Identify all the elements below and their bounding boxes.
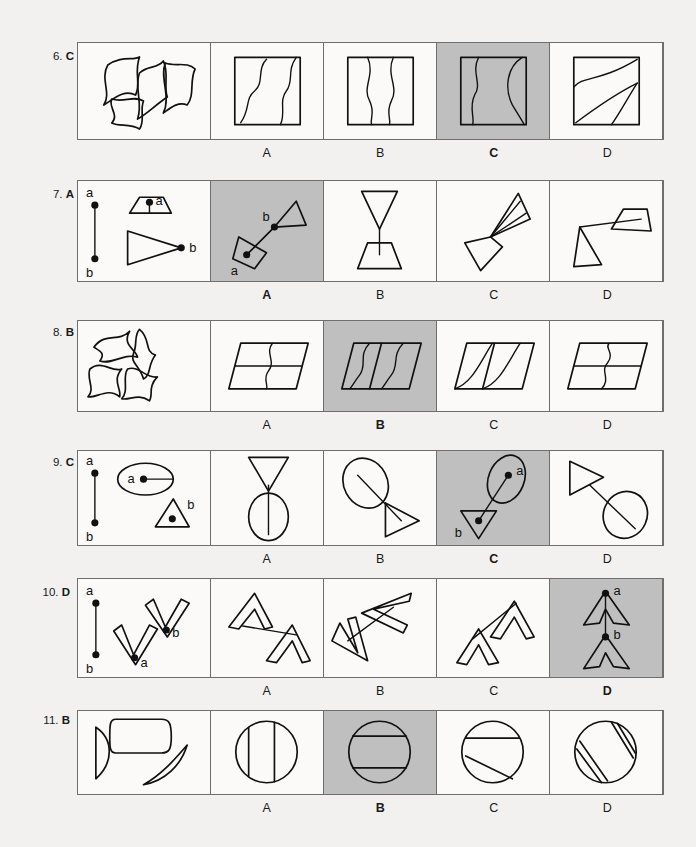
option-label-8-B: B: [324, 414, 438, 436]
row-label-7: 7. A: [14, 189, 74, 201]
option-cell-7-D[interactable]: [550, 181, 663, 281]
option-label-8-D: D: [551, 414, 665, 436]
option-label-9-C: C: [437, 548, 551, 570]
option-label-8-C: C: [437, 414, 551, 436]
option-label-6-C: C: [437, 142, 551, 164]
option-labels-11: A B C D: [77, 797, 664, 819]
option-label-6-D: D: [551, 142, 665, 164]
stem-panel-9: a b a b: [78, 451, 211, 545]
stem-label-a: a: [86, 185, 94, 200]
option-label-6-B: B: [324, 142, 438, 164]
option-cell-7-C[interactable]: [437, 181, 550, 281]
option-label-6-A: A: [210, 142, 324, 164]
option-cell-7-A[interactable]: a b: [211, 181, 324, 281]
question-row-8: 8. B: [77, 320, 664, 412]
svg-text:b: b: [172, 625, 179, 640]
stem-panel-10: a b b a: [78, 579, 211, 677]
option-cell-9-B[interactable]: [324, 451, 437, 545]
svg-text:b: b: [613, 627, 620, 642]
option-label-11-C: C: [437, 797, 551, 819]
label-spacer: [77, 142, 210, 164]
option-cell-6-D[interactable]: [550, 43, 663, 139]
option-label-10-B: B: [324, 680, 438, 702]
question-number: 8.: [53, 326, 63, 338]
stem-panel-11: [78, 711, 211, 794]
svg-text:b: b: [455, 525, 462, 540]
option-label-7-A: A: [210, 284, 324, 306]
option-label-8-A: A: [210, 414, 324, 436]
option-labels-10: A B C D: [77, 680, 664, 702]
option-label-11-D: D: [551, 797, 665, 819]
stem-label-a: a: [86, 583, 94, 598]
option-labels-9: A B C D: [77, 548, 664, 570]
answer-letter: C: [66, 50, 74, 62]
option-cell-8-C[interactable]: [437, 321, 550, 411]
option-label-10-A: A: [210, 680, 324, 702]
stem-panel-8: [78, 321, 211, 411]
answer-letter: B: [66, 326, 74, 338]
question-number: 6.: [53, 50, 63, 62]
label-spacer: [77, 797, 210, 819]
option-label-7-B: B: [324, 284, 438, 306]
option-cell-10-D[interactable]: a b: [550, 579, 663, 677]
option-label-11-B: B: [324, 797, 438, 819]
option-cell-6-C[interactable]: [437, 43, 550, 139]
svg-text:b: b: [187, 497, 194, 512]
option-labels-7: A B C D: [77, 284, 664, 306]
option-cell-8-B[interactable]: [324, 321, 437, 411]
option-cell-9-D[interactable]: [550, 451, 663, 545]
question-row-11: 11. B: [77, 710, 664, 795]
row-label-9: 9. C: [14, 457, 74, 469]
option-label-9-A: A: [210, 548, 324, 570]
label-spacer: [77, 548, 210, 570]
option-cell-10-B[interactable]: [324, 579, 437, 677]
svg-text:b: b: [263, 209, 270, 224]
question-row-6: 6. C: [77, 42, 664, 140]
option-cell-10-A[interactable]: [211, 579, 324, 677]
option-cell-6-B[interactable]: [324, 43, 437, 139]
stem-panel-6: [78, 43, 211, 139]
stem-label-a: a: [86, 453, 94, 468]
question-number: 11.: [43, 714, 58, 726]
option-labels-6: A B C D: [77, 142, 664, 164]
option-cell-11-B[interactable]: [324, 711, 437, 794]
svg-text:b: b: [189, 240, 196, 255]
row-label-10: 10. D: [10, 587, 70, 599]
svg-text:a: a: [155, 193, 163, 208]
svg-text:a: a: [613, 583, 621, 598]
option-cell-8-A[interactable]: [211, 321, 324, 411]
answer-letter: A: [66, 188, 74, 200]
label-spacer: [77, 284, 210, 306]
question-number: 7.: [53, 188, 63, 200]
option-label-10-C: C: [437, 680, 551, 702]
option-cell-6-A[interactable]: [211, 43, 324, 139]
stem-label-b: b: [86, 529, 93, 544]
question-row-10: a b b a: [77, 578, 664, 678]
option-cell-9-C[interactable]: a b: [437, 451, 550, 545]
option-label-7-C: C: [437, 284, 551, 306]
option-labels-8: A B C D: [77, 414, 664, 436]
option-cell-11-C[interactable]: [437, 711, 550, 794]
option-label-9-B: B: [324, 548, 438, 570]
option-cell-8-D[interactable]: [550, 321, 663, 411]
worksheet-page: 6. C A B C D a b a b: [0, 0, 696, 847]
answer-letter: B: [62, 714, 70, 726]
option-cell-11-A[interactable]: [211, 711, 324, 794]
option-cell-7-B[interactable]: [324, 181, 437, 281]
option-label-7-D: D: [551, 284, 665, 306]
question-row-7: a b a b a b: [77, 180, 664, 282]
option-cell-10-C[interactable]: [437, 579, 550, 677]
option-cell-9-A[interactable]: [211, 451, 324, 545]
answer-letter: C: [66, 456, 74, 468]
svg-text:a: a: [141, 655, 149, 670]
svg-text:a: a: [516, 463, 524, 478]
answer-letter: D: [62, 586, 70, 598]
question-number: 9.: [53, 456, 63, 468]
svg-text:a: a: [128, 471, 136, 486]
question-number: 10.: [42, 586, 58, 598]
option-label-9-D: D: [551, 548, 665, 570]
question-row-9: a b a b: [77, 450, 664, 546]
stem-panel-7: a b a b: [78, 181, 211, 281]
option-label-11-A: A: [210, 797, 324, 819]
option-cell-11-D[interactable]: [550, 711, 663, 794]
